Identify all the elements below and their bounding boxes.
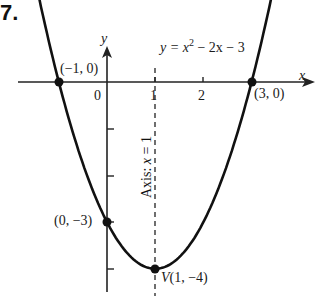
x-tick-label-0: 0 <box>94 88 101 104</box>
point-label-y-intercept: (0, −3) <box>54 213 92 229</box>
axis-label-var: x <box>139 158 154 164</box>
point-y-intercept <box>103 218 112 227</box>
x-tick-label-1: 1 <box>150 88 157 104</box>
x-axis-label: x <box>299 68 305 84</box>
vertex-coords: (1, −4) <box>170 270 208 285</box>
equation-label: y = x2 − 2x − 3 <box>160 37 245 56</box>
point-label-right: (3, 0) <box>254 86 284 102</box>
y-axis-label: y <box>101 31 107 47</box>
equation-suffix: − 2x − 3 <box>194 40 245 55</box>
axis-label-prefix: Axis: <box>139 164 154 198</box>
equation-prefix: y = x <box>160 40 189 55</box>
point-x-intercept-left <box>55 78 64 87</box>
axis-of-symmetry-label: Axis: x = 1 <box>139 136 155 198</box>
point-label-left: (−1, 0) <box>60 61 98 77</box>
vertex-prefix: V <box>161 270 170 285</box>
point-vertex <box>151 265 160 274</box>
x-tick-label-2: 2 <box>198 88 205 104</box>
axis-label-suffix: = 1 <box>139 136 154 158</box>
point-label-vertex: V(1, −4) <box>161 270 208 286</box>
